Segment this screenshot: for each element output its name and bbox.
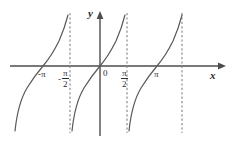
plot-area <box>0 0 234 144</box>
x-axis-arrowhead <box>218 63 226 70</box>
neg-half-pi-numerator: π <box>62 69 69 79</box>
tick-label-half-pi: π2 <box>121 69 128 89</box>
y-axis-label: y <box>88 8 93 19</box>
half-pi-denominator: 2 <box>121 79 128 89</box>
neg-half-pi-denominator: 2 <box>62 79 69 89</box>
tick-label-neg-half-pi: -π2 <box>58 69 69 89</box>
origin-label: 0 <box>103 69 108 78</box>
tick-label-pi: π <box>154 70 159 79</box>
tick-label-neg-pi: -π <box>38 70 46 79</box>
neg-half-pi-fraction: π2 <box>62 69 69 89</box>
half-pi-numerator: π <box>121 69 128 79</box>
half-pi-fraction: π2 <box>121 69 128 89</box>
tangent-function-graph: y x 0 -π -π2 π2 π <box>0 0 234 144</box>
x-axis-label: x <box>210 70 216 81</box>
y-axis-arrowhead <box>97 11 104 19</box>
tan-branch-center <box>72 15 125 131</box>
